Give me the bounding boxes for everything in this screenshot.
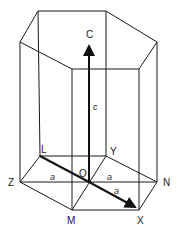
label-c-axis: C xyxy=(86,29,93,40)
label-a-diag: a xyxy=(114,186,119,196)
label-a-right: a xyxy=(107,172,112,182)
label-N: N xyxy=(163,177,170,188)
a-axis-arrow xyxy=(89,182,135,207)
label-O: O xyxy=(79,168,87,179)
label-L: L xyxy=(41,144,47,155)
label-a-left: a xyxy=(50,172,55,182)
label-Y: Y xyxy=(110,146,117,157)
label-X: X xyxy=(137,215,144,226)
label-M: M xyxy=(67,215,75,226)
label-c-length: c xyxy=(93,102,98,112)
hexagonal-prism-diagram: C c L Y Z O N M X a a a xyxy=(0,0,177,233)
label-Z: Z xyxy=(8,177,14,188)
